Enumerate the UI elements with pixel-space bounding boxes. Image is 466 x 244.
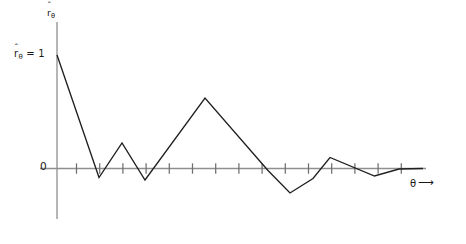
y-axis-label-base: r [47,7,51,18]
y-axis-label: ˆrθ [47,8,55,20]
y-tick-one-equals: = 1 [23,48,45,59]
right-arrow-icon: ⟶ [418,177,434,188]
data-curve-line [57,55,423,193]
y-tick-label-one: ˆrθ = 1 [14,49,45,61]
x-axis-label: θ⟶ [410,177,434,189]
theta-symbol: θ [410,178,416,189]
figure-canvas: ˆrθ ˆrθ = 1 0 θ⟶ [0,0,466,244]
y-axis-label-symbol: ˆr [47,8,51,18]
plot-svg [0,0,466,244]
y-tick-one-base: r [14,48,18,59]
y-axis-label-subscript: θ [51,12,55,20]
y-tick-label-zero: 0 [40,161,47,172]
y-tick-one-symbol: ˆr [14,49,18,59]
